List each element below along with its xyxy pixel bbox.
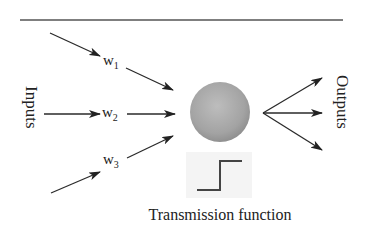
- weight-2-label: w2: [102, 104, 118, 123]
- inputs-label: Inputs: [22, 86, 41, 129]
- outputs-label: Outputs: [333, 75, 352, 129]
- neuron-diagram: Inputs w1 w2 w3 Outputs Transmission fun…: [0, 0, 371, 239]
- weight-1-label: w1: [103, 52, 119, 71]
- transmission-function-caption: Transmission function: [149, 206, 292, 223]
- weight-3-label: w3: [103, 151, 119, 170]
- neuron-node: [190, 82, 250, 142]
- output-arrows: [263, 78, 322, 150]
